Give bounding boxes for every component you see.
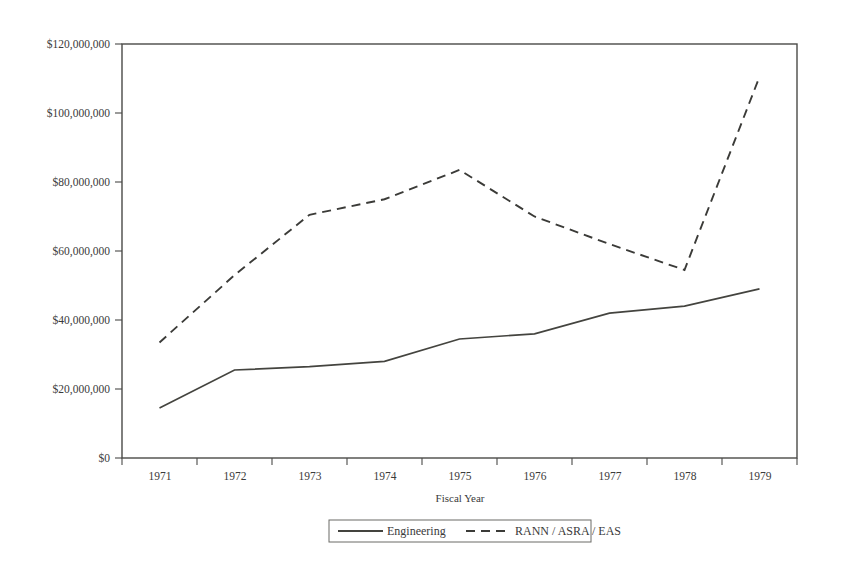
y-tick-label: $100,000,000 — [47, 107, 111, 120]
x-axis-tick-labels: 1971 1972 1973 1974 1975 1976 1977 1978 … — [149, 470, 772, 482]
x-tick-label: 1977 — [599, 470, 622, 482]
y-tick-label: $40,000,000 — [53, 314, 111, 327]
x-tick-label: 1974 — [374, 470, 397, 482]
y-tick-label: $120,000,000 — [47, 38, 111, 51]
legend-label-engineering: Engineering — [387, 524, 446, 538]
y-tick-label: $60,000,000 — [53, 245, 111, 258]
x-tick-label: 1979 — [749, 470, 772, 482]
legend-label-rann-asra-eas: RANN / ASRA / EAS — [515, 524, 621, 538]
y-tick-label: $20,000,000 — [53, 383, 111, 396]
chart-background — [0, 0, 845, 576]
x-tick-label: 1973 — [299, 470, 322, 482]
chart-figure: $120,000,000 $100,000,000 $80,000,000 $6… — [0, 0, 845, 576]
x-tick-label: 1976 — [524, 470, 547, 482]
x-tick-label: 1978 — [674, 470, 697, 482]
x-tick-label: 1975 — [449, 470, 472, 482]
x-tick-label: 1972 — [224, 470, 247, 482]
y-tick-label: $0 — [99, 452, 111, 464]
y-tick-label: $80,000,000 — [53, 176, 111, 189]
x-axis-title: Fiscal Year — [436, 492, 485, 504]
chart-legend: Engineering RANN / ASRA / EAS — [329, 520, 621, 542]
line-chart-canvas: $120,000,000 $100,000,000 $80,000,000 $6… — [0, 0, 845, 576]
x-tick-label: 1971 — [149, 470, 172, 482]
